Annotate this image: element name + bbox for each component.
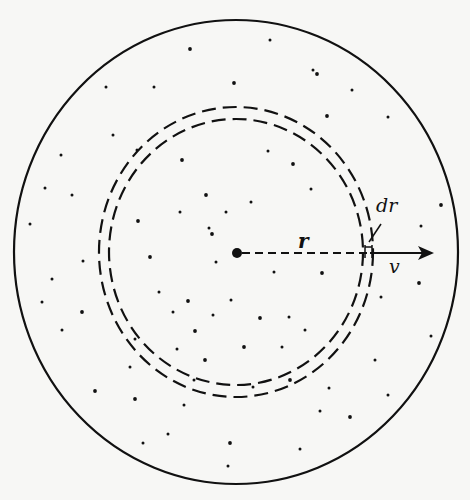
radius-label: r xyxy=(298,229,310,253)
particle-dot xyxy=(193,329,197,333)
particle-dot xyxy=(232,81,236,85)
particle-dot xyxy=(380,296,383,299)
particle-dot xyxy=(133,397,137,401)
particle-dot xyxy=(417,281,421,285)
particle-dot xyxy=(242,345,246,349)
particle-dot xyxy=(228,441,232,445)
particle-dot xyxy=(420,225,423,228)
particle-dot xyxy=(82,260,85,263)
particle-dot xyxy=(288,378,292,382)
particle-dot xyxy=(387,394,390,397)
particle-dot xyxy=(312,69,315,72)
particle-dot xyxy=(172,311,175,314)
particle-dot xyxy=(439,203,443,207)
particle-dot xyxy=(61,329,64,332)
particle-dot xyxy=(374,359,377,362)
particle-dot xyxy=(328,387,331,390)
particle-dot xyxy=(225,211,228,214)
particle-dot xyxy=(281,346,284,349)
particle-dot xyxy=(71,194,74,197)
particle-dot xyxy=(179,211,182,214)
particle-dot xyxy=(142,442,145,445)
particle-dot xyxy=(186,299,190,303)
particle-dot xyxy=(387,116,390,119)
particle-dot xyxy=(176,348,179,351)
particle-dot xyxy=(288,316,291,319)
particle-dot xyxy=(134,338,137,341)
particle-dot xyxy=(299,448,302,451)
particle-dot xyxy=(215,261,218,264)
particle-dot xyxy=(188,47,192,51)
particle-dot xyxy=(193,379,196,382)
particle-dot xyxy=(351,89,354,92)
particle-dot xyxy=(267,150,270,153)
particle-dot xyxy=(51,278,54,281)
particle-dot xyxy=(93,389,97,393)
particle-dot xyxy=(325,114,329,118)
particle-dot xyxy=(252,386,255,389)
dr-bracket xyxy=(365,245,372,258)
particle-dot xyxy=(204,193,208,197)
particle-dot xyxy=(41,301,44,304)
particle-dot xyxy=(183,404,186,407)
particle-dot xyxy=(136,219,140,223)
shell-thickness-label: dr xyxy=(376,194,399,216)
particle-dot xyxy=(105,86,108,89)
particle-dot xyxy=(112,134,115,137)
particle-dot xyxy=(80,310,84,314)
particle-dot xyxy=(29,223,32,226)
particle-dot xyxy=(208,227,211,230)
particle-dot xyxy=(227,465,230,468)
particle-dot xyxy=(250,201,253,204)
velocity-label: v xyxy=(389,255,400,277)
particle-dot xyxy=(291,162,295,166)
particle-dot xyxy=(269,39,272,42)
particle-dot xyxy=(60,154,63,157)
particle-dot xyxy=(158,291,161,294)
shell-diagram: r dr v xyxy=(0,0,470,500)
particle-dot xyxy=(210,232,214,236)
center-point xyxy=(232,248,242,258)
particle-dot xyxy=(167,433,170,436)
particle-dot xyxy=(258,316,262,320)
particle-dot xyxy=(203,358,207,362)
particle-dot xyxy=(44,187,47,190)
particle-dot xyxy=(129,366,132,369)
particle-dot xyxy=(319,410,322,413)
particle-dot xyxy=(180,158,184,162)
particle-dot xyxy=(304,329,307,332)
particle-dot xyxy=(148,255,152,259)
particle-dot xyxy=(273,271,276,274)
particle-dot xyxy=(430,335,433,338)
particle-dot xyxy=(310,188,313,191)
particle-dot xyxy=(320,271,324,275)
particle-dot xyxy=(348,415,352,419)
particle-dot xyxy=(153,86,156,89)
particle-dot xyxy=(230,299,233,302)
particle-dot xyxy=(315,72,319,76)
particle-dot xyxy=(212,314,215,317)
